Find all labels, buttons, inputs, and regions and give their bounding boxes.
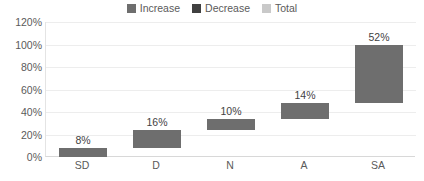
bar-value-label: 8% [46, 135, 120, 146]
legend-item-decrease: Decrease [192, 3, 250, 14]
x-axis-tick-label: N [193, 160, 267, 178]
legend-swatch-total [262, 4, 271, 13]
legend-item-increase: Increase [127, 3, 180, 14]
y-axis-tick-label: 120% [2, 17, 42, 28]
waterfall-chart: Increase Decrease Total 0%20%40%60%80%10… [0, 0, 424, 181]
bar-group[interactable]: 16% [120, 22, 194, 157]
x-axis-tick-label: SA [341, 160, 415, 178]
x-axis-tick-label: SD [45, 160, 119, 178]
legend-swatch-decrease [192, 4, 201, 13]
legend-item-total: Total [262, 3, 297, 14]
y-axis-tick-label: 40% [2, 107, 42, 118]
chart-legend: Increase Decrease Total [0, 1, 424, 16]
bar[interactable] [355, 45, 402, 104]
bar-value-label: 14% [268, 90, 342, 101]
legend-label-increase: Increase [140, 3, 180, 14]
bar[interactable] [133, 130, 180, 148]
legend-swatch-increase [127, 4, 136, 13]
bar-group[interactable]: 10% [194, 22, 268, 157]
x-axis-tick-label: A [267, 160, 341, 178]
bar-group[interactable]: 52% [342, 22, 416, 157]
bar-group[interactable]: 8% [46, 22, 120, 157]
bar-value-label: 52% [342, 32, 416, 43]
legend-label-total: Total [275, 3, 297, 14]
x-axis: SDDNASA [45, 160, 415, 178]
y-axis: 0%20%40%60%80%100%120% [0, 22, 42, 157]
y-axis-tick-label: 60% [2, 84, 42, 95]
bar[interactable] [59, 148, 106, 157]
y-axis-tick-label: 0% [2, 152, 42, 163]
x-axis-tick-label: D [119, 160, 193, 178]
bar[interactable] [207, 119, 254, 130]
bar-value-label: 10% [194, 106, 268, 117]
bar-group[interactable]: 14% [268, 22, 342, 157]
bar[interactable] [281, 103, 328, 119]
y-axis-tick-label: 80% [2, 62, 42, 73]
bar-value-label: 16% [120, 117, 194, 128]
y-axis-tick-label: 20% [2, 129, 42, 140]
plot-area: 8%16%10%14%52% [45, 22, 415, 157]
y-axis-tick-label: 100% [2, 39, 42, 50]
legend-label-decrease: Decrease [205, 3, 250, 14]
bar-series: 8%16%10%14%52% [46, 22, 416, 157]
